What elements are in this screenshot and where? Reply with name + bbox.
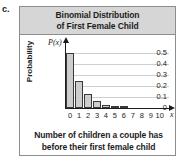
caption-line-2: before their first female child: [42, 141, 156, 153]
y-axis-arrow-icon: [63, 37, 69, 43]
problem-item-label: c.: [2, 4, 10, 14]
caption-line-1: Number of children a couple has: [34, 129, 163, 141]
x-tick-label: 0: [66, 111, 74, 120]
y-tick-label: 0.5: [157, 49, 167, 57]
chart-title-band: Binomial Distribution of First Female Ch…: [20, 7, 175, 35]
y-tick-label: 0.3: [157, 71, 167, 79]
bar: [120, 106, 128, 108]
bar: [75, 81, 83, 108]
bar: [84, 94, 92, 108]
gridline: [66, 64, 169, 65]
x-tick-label: 2: [84, 111, 92, 120]
x-tick-label: 4: [102, 111, 110, 120]
x-tick-label: 1: [75, 111, 83, 120]
y-axis-title: Probability: [25, 34, 34, 90]
x-tick-label: 6: [120, 111, 128, 120]
x-tick-label: 5: [111, 111, 119, 120]
bar: [66, 53, 74, 108]
bar: [93, 101, 101, 108]
x-axis-line: [65, 108, 169, 109]
x-axis-variable-label: x: [170, 110, 174, 119]
x-tick-label: 7: [129, 111, 137, 120]
y-axis-variable-label: P(x): [48, 38, 62, 47]
bar: [111, 106, 119, 108]
gridline: [66, 75, 169, 76]
x-tick-label: 10: [156, 111, 164, 120]
x-tick-label: 9: [147, 111, 155, 120]
y-tick-label: 0.2: [157, 82, 167, 90]
x-tick-label: 8: [138, 111, 146, 120]
x-tick-label: 3: [93, 111, 101, 120]
chart-title-line-1: Binomial Distribution: [56, 10, 140, 21]
gridline: [66, 53, 169, 54]
plot-region: Probability P(x) x 0.50.40.30.20.1001234…: [20, 35, 177, 125]
chart-figure-box: Binomial Distribution of First Female Ch…: [19, 6, 176, 156]
bar: [102, 105, 110, 108]
chart-caption: Number of children a couple has before t…: [20, 126, 177, 156]
y-tick-label: 0.1: [157, 93, 167, 101]
figure-panel: c. Binomial Distribution of First Female…: [0, 0, 179, 162]
plot-axes-area: x 0.50.40.30.20.10012345678910: [66, 48, 169, 108]
y-tick-label: 0.4: [157, 60, 167, 68]
chart-title-line-2: of First Female Child: [57, 21, 139, 32]
